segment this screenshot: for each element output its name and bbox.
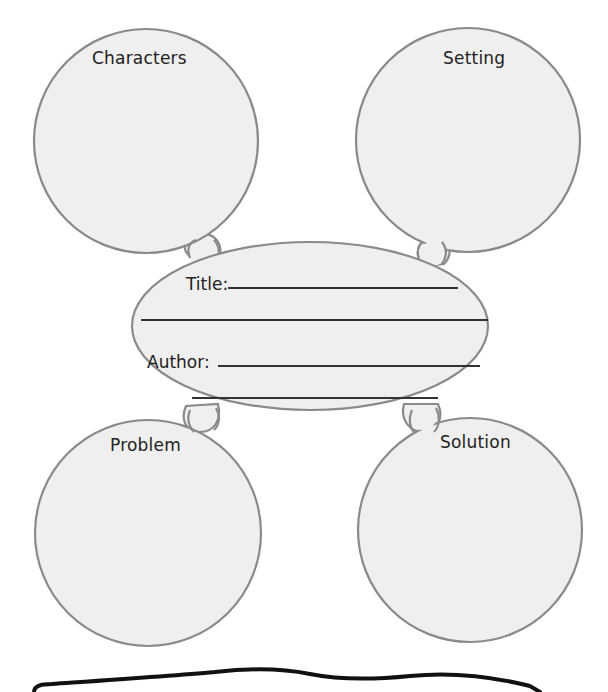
solution-label: Solution — [440, 432, 511, 452]
setting-label: Setting — [443, 48, 505, 68]
problem-label: Problem — [110, 435, 181, 455]
title-label: Title: — [185, 274, 228, 294]
center-ellipse[interactable] — [132, 242, 488, 410]
author-label: Author: — [147, 352, 210, 372]
story-map-organizer: Characters Setting Problem Solution Titl… — [0, 0, 608, 692]
wavy-divider-line — [34, 669, 540, 692]
characters-label: Characters — [92, 48, 187, 68]
